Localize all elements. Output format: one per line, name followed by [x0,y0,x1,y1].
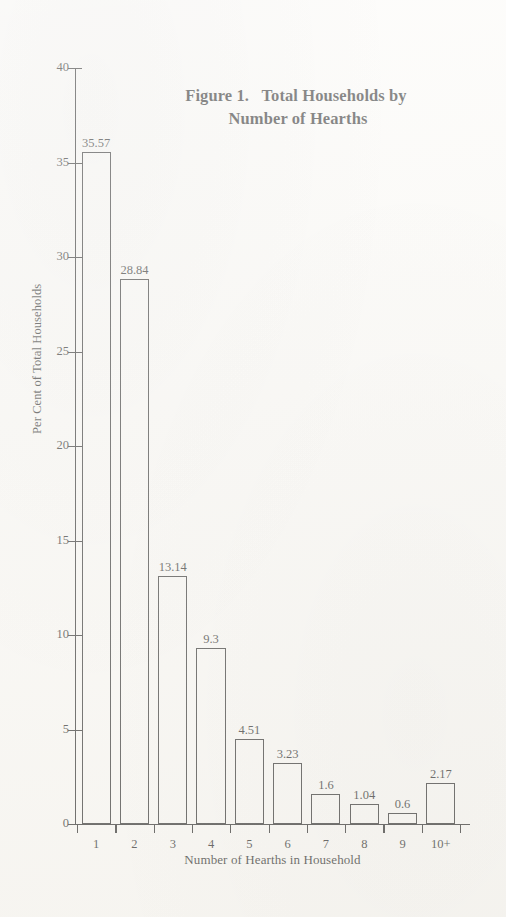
x-tick-label: 7 [323,836,329,852]
x-tick-label: 6 [285,836,291,852]
x-tick-mark [460,824,461,833]
x-tick-label: 3 [170,836,176,852]
bar-value-label: 13.14 [159,560,187,575]
bar: 4.51 [235,739,264,824]
bar: 28.84 [120,279,149,824]
x-axis-line [75,824,470,825]
x-tick-mark [230,824,231,833]
x-tick-mark [269,824,270,833]
bar-value-label: 1.6 [318,778,334,793]
y-tick-mark [68,68,82,69]
bar: 3.23 [273,763,302,824]
bar: 9.3 [196,648,225,824]
y-tick-mark [68,730,82,731]
y-tick-mark [68,257,82,258]
y-tick-label: 20 [57,437,70,454]
x-tick-mark [77,824,78,833]
y-tick-label: 15 [57,532,70,549]
x-tick-label: 1 [93,836,99,852]
x-axis-title: Number of Hearths in Household [75,852,470,868]
x-tick-mark [345,824,346,833]
x-tick-mark [115,824,116,833]
bar-value-label: 28.84 [120,263,148,278]
bar: 0.6 [388,813,417,824]
bar-value-label: 1.04 [353,788,375,803]
bar-value-label: 4.51 [238,723,260,738]
y-tick-label: 0 [63,815,69,832]
x-tick-label: 2 [131,836,137,852]
bar-value-label: 3.23 [277,747,299,762]
y-tick-mark [68,352,82,353]
x-tick-label: 5 [246,836,252,852]
y-tick-mark [68,163,82,164]
bar-value-label: 0.6 [395,797,411,812]
y-tick-mark [68,824,82,825]
figure-container: Figure 1. Total Households by Number of … [0,0,506,917]
y-tick-label: 10 [57,626,70,643]
y-tick-label: 35 [57,154,70,171]
bar: 13.14 [158,576,187,824]
bar: 1.04 [350,804,379,824]
x-tick-mark [154,824,155,833]
x-tick-mark [307,824,308,833]
x-tick-mark [422,824,423,833]
y-tick-label: 30 [57,248,70,265]
y-axis-title: Per Cent of Total Households [30,284,45,434]
bar-value-label: 9.3 [203,632,219,647]
bar-value-label: 35.57 [82,136,110,151]
bar: 35.57 [82,152,111,824]
y-tick-label: 40 [57,59,70,76]
plot-area: 0510152025303540 12345678910+ 35.5728.84… [75,68,470,824]
y-tick-label: 25 [57,343,70,360]
y-tick-mark [68,446,82,447]
bar: 1.6 [311,794,340,824]
y-tick-mark [68,541,82,542]
x-tick-label: 4 [208,836,214,852]
y-tick-label: 5 [63,721,69,738]
x-tick-label: 9 [399,836,405,852]
x-tick-label: 8 [361,836,367,852]
x-tick-mark [383,824,384,833]
x-tick-mark [192,824,193,833]
y-tick-mark [68,635,82,636]
x-tick-label: 10+ [431,836,451,852]
bar: 2.17 [426,783,455,824]
bar-value-label: 2.17 [430,767,452,782]
